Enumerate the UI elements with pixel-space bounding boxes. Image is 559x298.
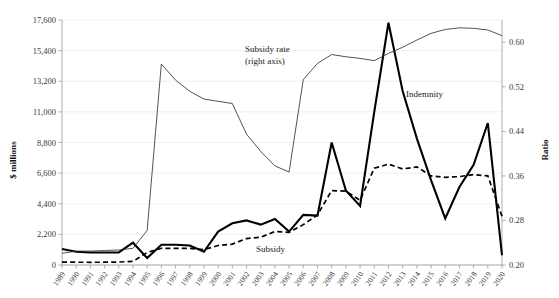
x-axis-tick-label: 2008: [321, 270, 337, 288]
x-axis-tick-label: 1996: [150, 270, 166, 288]
left-axis: 02,2004,4006,6008,80011,00013,20015,4001…: [33, 15, 62, 270]
x-axis-tick-label: 2005: [278, 270, 294, 288]
right-axis-tick-label: 0.28: [509, 215, 524, 225]
chart-annotation: Subsidy: [256, 244, 286, 254]
x-axis-tick-label: 2014: [406, 270, 422, 288]
chart-annotation: (right axis): [245, 56, 285, 66]
chart-annotation: Indemnity: [406, 89, 443, 99]
right-axis-tick-label: 0.60: [509, 37, 524, 47]
left-axis-tick-label: 2,200: [37, 229, 56, 239]
x-axis-tick-label: 1995: [136, 270, 152, 288]
x-axis-tick-label: 2010: [349, 270, 365, 288]
left-axis-tick-label: 0: [52, 260, 56, 270]
chart-canvas: 02,2004,4006,6008,80011,00013,20015,4001…: [0, 0, 559, 298]
right-axis-tick-label: 0.36: [509, 171, 524, 181]
x-axis-tick-label: 2017: [448, 270, 464, 288]
left-axis-tick-label: 4,400: [37, 199, 56, 209]
chart-annotation: Subsidy rate: [245, 44, 290, 54]
x-axis-tick-label: 2020: [491, 270, 507, 288]
x-axis-tick-label: 2002: [236, 270, 252, 288]
x-axis-tick-label: 1989: [51, 270, 67, 288]
left-axis-tick-label: 6,600: [37, 168, 56, 178]
right-axis-tick-label: 0.44: [509, 126, 525, 136]
x-axis-tick-label: 2015: [420, 270, 436, 288]
x-axis-tick-label: 1999: [193, 270, 209, 288]
x-axis-tick-label: 2011: [363, 270, 379, 288]
x-axis-tick-label: 2013: [392, 270, 408, 288]
left-axis-tick-label: 8,800: [37, 138, 56, 148]
x-axis-tick-label: 1993: [108, 270, 124, 288]
left-axis-tick-label: 13,200: [33, 76, 56, 86]
x-axis-tick-label: 1992: [94, 270, 110, 288]
annotations-group: Subsidy rate(right axis)IndemnitySubsidy: [245, 44, 443, 254]
x-axis-tick-label: 2001: [221, 270, 237, 288]
x-axis-tick-label: 2018: [463, 270, 479, 288]
x-axis-tick-label: 1994: [122, 270, 138, 288]
x-axis-tick-label: 1990: [65, 270, 81, 288]
x-axis-tick-label: 2004: [264, 270, 280, 288]
x-axis-tick-label: 2006: [292, 270, 308, 288]
y-axis-title-right: Ratio: [540, 139, 550, 160]
left-axis-tick-label: 15,400: [33, 46, 56, 56]
left-axis-tick-label: 17,600: [33, 15, 56, 25]
x-axis-tick-label: 1998: [179, 270, 195, 288]
x-axis-tick-label: 1997: [165, 270, 181, 288]
subsidy-indemnity-chart: 02,2004,4006,6008,80011,00013,20015,4001…: [0, 0, 559, 298]
x-axis-tick-label: 2009: [335, 270, 351, 288]
right-axis-tick-label: 0.20: [509, 260, 524, 270]
x-axis-tick-label: 2003: [250, 270, 266, 288]
right-axis: 0.200.280.360.440.520.60: [502, 20, 525, 270]
x-axis-tick-label: 2007: [307, 270, 323, 288]
x-axis-tick-label: 2000: [207, 270, 223, 288]
y-axis-title-left: $ millions: [8, 141, 18, 179]
left-axis-tick-label: 11,000: [33, 107, 56, 117]
x-axis-tick-label: 2019: [477, 270, 493, 288]
x-axis: 1989199019911992199319941995199619971998…: [51, 265, 507, 288]
x-axis-tick-label: 2016: [434, 270, 450, 288]
x-axis-tick-label: 1991: [79, 270, 95, 288]
right-axis-tick-label: 0.52: [509, 82, 524, 92]
x-axis-tick-label: 2012: [378, 270, 394, 288]
